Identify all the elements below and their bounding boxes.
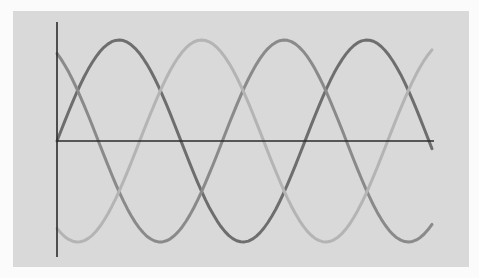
line-chart bbox=[0, 0, 479, 278]
chart-figure bbox=[0, 0, 479, 278]
